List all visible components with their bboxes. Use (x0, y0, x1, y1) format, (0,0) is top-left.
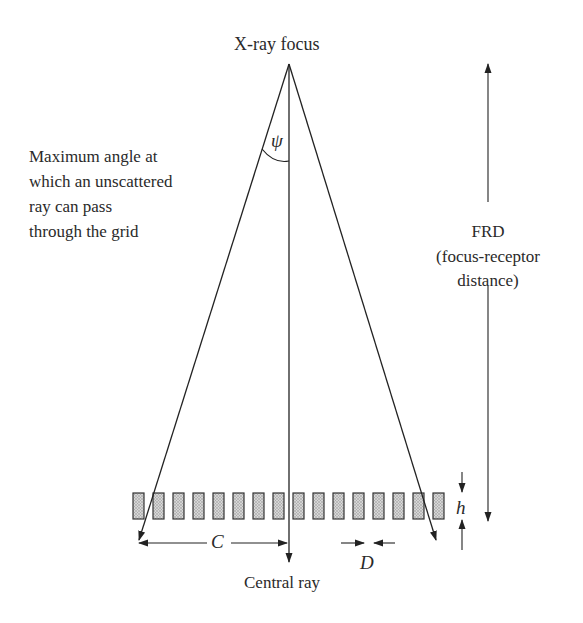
grid-strip (353, 493, 364, 519)
grid-strip (333, 493, 344, 519)
h-label: h (456, 497, 466, 518)
left-oblique-ray (139, 64, 289, 540)
grid-strip (313, 493, 324, 519)
grid-strip (233, 493, 244, 519)
psi-label: ψ (271, 130, 283, 151)
grid-strip (193, 493, 204, 519)
grid-strip (273, 493, 284, 519)
frd-line-1: FRD (418, 221, 558, 242)
max-angle-line-1: Maximum angle at (29, 146, 157, 167)
frd-line-3: distance) (418, 270, 558, 291)
central-ray-label: Central ray (244, 572, 320, 593)
grid-strip (133, 493, 144, 519)
grid-strip (433, 493, 444, 519)
max-angle-line-3: ray can pass (29, 196, 112, 217)
grid-strip (293, 493, 304, 519)
d-label: D (360, 552, 374, 573)
grid-strip (393, 493, 404, 519)
max-angle-line-4: through the grid (29, 221, 139, 242)
frd-line-2: (focus-receptor (418, 246, 558, 267)
grid-strip (213, 493, 224, 519)
grid-strip (253, 493, 264, 519)
max-angle-line-2: which an unscattered (29, 171, 173, 192)
grid-diagram (0, 0, 583, 623)
c-label: C (211, 531, 224, 552)
grid-strip (153, 493, 164, 519)
right-oblique-ray (289, 64, 436, 540)
grid-strip (373, 493, 384, 519)
x-ray-focus-label: X-ray focus (234, 34, 319, 55)
grid-strip (173, 493, 184, 519)
